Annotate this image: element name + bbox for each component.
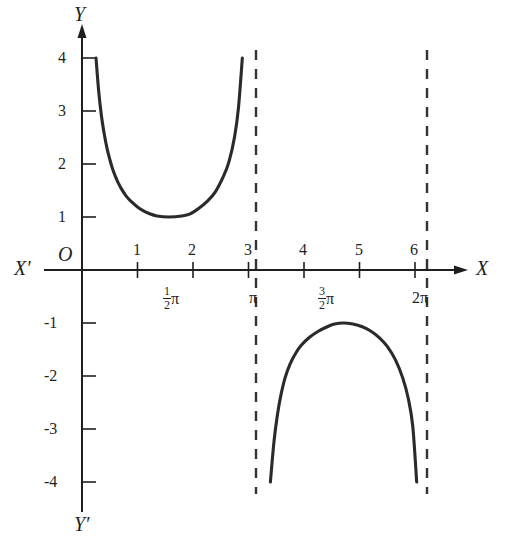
- x-tick-label-5: 5: [355, 242, 363, 258]
- x-label-pi: π: [249, 290, 257, 306]
- half-pi-fraction: 1 2: [163, 285, 171, 311]
- y-tick-label-minus-2: -2: [44, 368, 57, 384]
- x-label-three-halves-pi: 3 2 π: [318, 286, 334, 312]
- three-halves-pi-symbol: π: [326, 290, 334, 307]
- x-axis-label: X: [476, 258, 488, 278]
- y-tick-label-minus-4: -4: [44, 474, 57, 490]
- y-axis-label: Y: [74, 4, 85, 24]
- half-pi-symbol: π: [171, 290, 179, 307]
- three-halves-pi-fraction: 3 2: [318, 285, 326, 311]
- csc-function-graph: [0, 0, 507, 547]
- origin-label: O: [58, 244, 72, 264]
- plot-background: [0, 0, 507, 547]
- y-tick-label-3: 3: [58, 103, 66, 119]
- x-tick-label-2: 2: [188, 242, 196, 258]
- three-halves-pi-denominator: 2: [318, 299, 326, 312]
- half-pi-numerator: 1: [163, 285, 171, 299]
- three-halves-pi-numerator: 3: [318, 285, 326, 299]
- x-negative-axis-label: X′: [14, 258, 31, 278]
- x-tick-label-6: 6: [410, 242, 418, 258]
- y-tick-label-minus-3: -3: [44, 421, 57, 437]
- y-tick-label-1: 1: [58, 209, 66, 225]
- half-pi-denominator: 2: [163, 299, 171, 312]
- y-tick-label-4: 4: [58, 50, 66, 66]
- y-negative-axis-label: Y′: [74, 514, 90, 534]
- x-tick-label-3: 3: [244, 242, 252, 258]
- x-label-half-pi: 1 2 π: [163, 286, 179, 312]
- x-label-two-pi: 2π: [412, 290, 428, 306]
- y-tick-label-2: 2: [58, 156, 66, 172]
- x-tick-label-4: 4: [299, 242, 307, 258]
- y-tick-label-minus-1: -1: [44, 315, 57, 331]
- x-tick-label-1: 1: [133, 242, 141, 258]
